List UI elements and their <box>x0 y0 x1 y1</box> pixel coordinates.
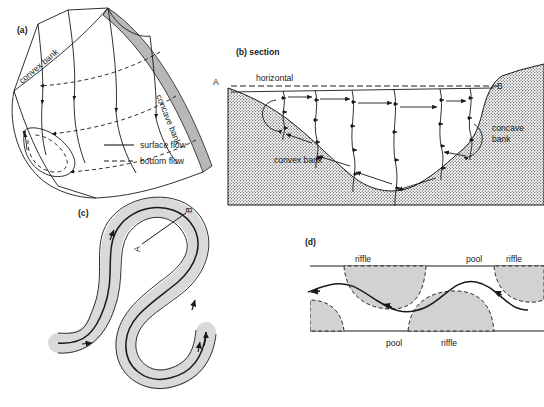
panel-d-top-label-3: riffle <box>506 254 522 264</box>
horizontal-label: horizontal <box>256 73 293 83</box>
panel-b-convex-bank-label: convex bank <box>274 155 323 165</box>
bed-down-edge <box>96 172 203 198</box>
panel-b-concave-bank-label-2: bank <box>492 134 511 144</box>
helix-up-arrow <box>25 133 27 150</box>
panel-d: (d) riffle pool riffle pool riffle <box>305 237 544 348</box>
panel-a: (a) <box>12 8 212 198</box>
legend-surface-label: surface flow <box>140 140 187 150</box>
panel-d-top-label-1: riffle <box>355 254 371 264</box>
panel-b: (b) section horizontal A B <box>213 47 544 206</box>
panel-c-point-b-label: B <box>184 207 194 213</box>
panel-d-bottom-label-1: pool <box>386 338 402 348</box>
panel-c: (c) A B <box>58 197 216 388</box>
figure-canvas: (a) <box>0 0 544 407</box>
near-section-outline <box>12 91 96 198</box>
panel-c-point-a-label: A <box>132 246 142 252</box>
surface-flow-arrows-b <box>288 97 466 107</box>
panel-b-point-b-label: B <box>497 81 503 91</box>
river-meander-figure: (a) <box>0 0 544 407</box>
panel-b-concave-bank-label-1: concave <box>492 123 524 133</box>
bottom-flow-lines <box>40 52 196 172</box>
flow-legend: surface flow bottom flow <box>104 140 187 166</box>
panel-a-convex-bank-label: convex bank <box>17 46 61 85</box>
panel-b-point-a-label: A <box>213 77 219 87</box>
panel-a-label: (a) <box>17 25 28 35</box>
water-surface-line <box>231 88 494 92</box>
point-bars-d <box>310 266 544 331</box>
legend-bottom-label: bottom flow <box>140 156 185 166</box>
panel-d-bottom-label-2: riffle <box>441 338 457 348</box>
point-bar-bottom-1 <box>310 300 344 331</box>
panel-c-label: (c) <box>78 208 89 218</box>
panel-d-top-label-2: pool <box>466 254 482 264</box>
panel-b-label: (b) section <box>236 47 279 57</box>
point-bar-bottom-2 <box>408 291 494 331</box>
panel-d-label: (d) <box>305 237 316 247</box>
